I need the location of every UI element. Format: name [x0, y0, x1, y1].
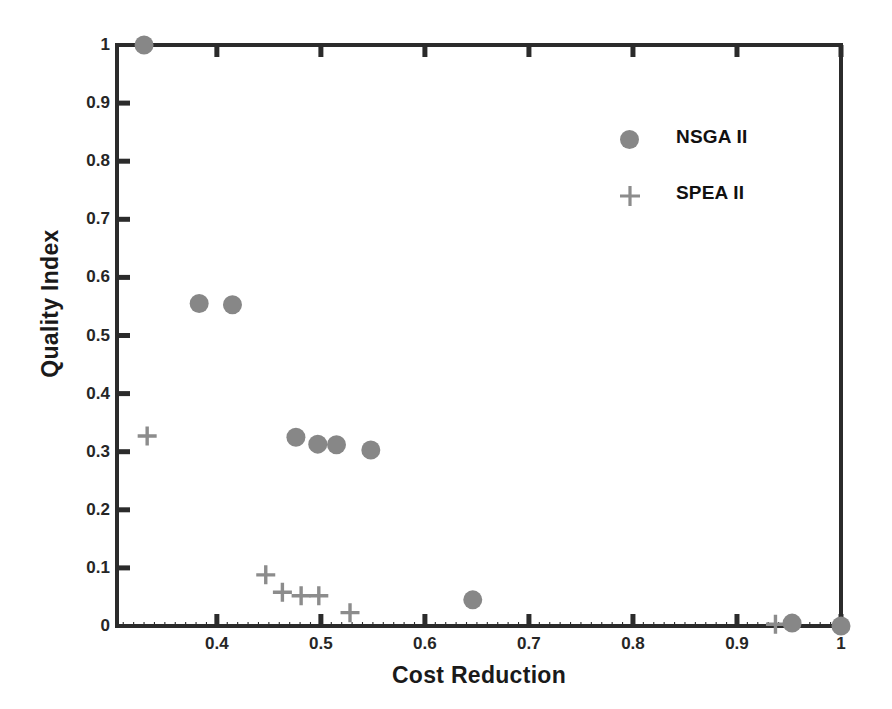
nsga-ii-point-1 [190, 294, 209, 313]
nsga-ii-point-0 [135, 36, 154, 55]
legend-item-nsga-ii[interactable]: NSGA II [600, 118, 830, 174]
legend-label-spea-ii: SPEA II [676, 182, 744, 204]
plus-marker-icon [618, 184, 642, 208]
spea-ii-point-2 [273, 583, 292, 602]
spea-ii-point-5 [341, 603, 360, 622]
legend-item-spea-ii[interactable]: SPEA II [600, 174, 830, 230]
legend: NSGA II SPEA II [600, 118, 830, 230]
legend-label-nsga-ii: NSGA II [676, 126, 747, 148]
circle-marker-icon [618, 128, 642, 152]
nsga-ii-point-6 [361, 440, 380, 459]
spea-ii-point-0 [138, 427, 157, 446]
nsga-ii-point-7 [463, 590, 482, 609]
spea-ii-point-6 [766, 615, 785, 634]
spea-ii-point-4 [309, 586, 328, 605]
nsga-ii-point-3 [286, 428, 305, 447]
nsga-ii-point-5 [327, 435, 346, 454]
spea-ii-point-1 [256, 565, 275, 584]
scatter-plot-figure: Quality Index Cost Reduction 00.10.20.30… [0, 0, 892, 709]
nsga-ii-point-8 [783, 614, 802, 633]
nsga-ii-point-9 [832, 617, 851, 636]
nsga-ii-point-4 [308, 435, 327, 454]
spea-ii-point-3 [292, 586, 311, 605]
nsga-ii-point-2 [223, 295, 242, 314]
plot-area [0, 0, 892, 709]
